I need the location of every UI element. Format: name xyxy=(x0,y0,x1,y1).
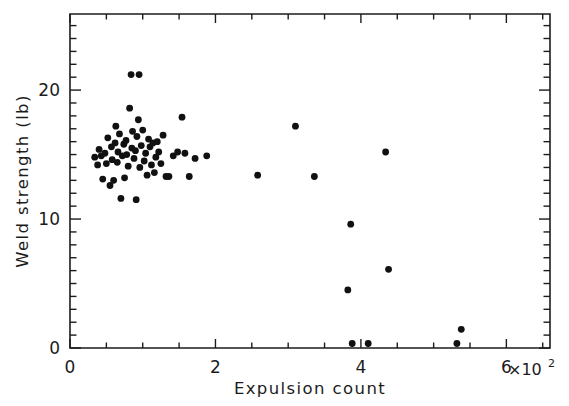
data-point xyxy=(365,340,372,347)
data-point xyxy=(128,71,135,78)
data-point xyxy=(94,161,101,168)
frame-rect xyxy=(70,14,550,348)
data-point xyxy=(112,123,119,130)
data-point xyxy=(104,134,111,141)
data-point xyxy=(132,147,139,154)
data-point xyxy=(155,149,162,156)
data-point xyxy=(458,326,465,333)
data-point xyxy=(203,152,210,159)
axis-ticks xyxy=(70,14,550,348)
y-tick-label: 10 xyxy=(38,209,60,229)
data-point xyxy=(134,133,141,140)
data-point xyxy=(141,158,148,165)
data-point xyxy=(96,146,103,153)
data-point xyxy=(123,151,130,158)
x-tick-label: 2 xyxy=(210,357,221,377)
data-point xyxy=(136,71,143,78)
x-multiplier-base: ×10 xyxy=(508,360,542,379)
data-point xyxy=(91,154,98,161)
data-point xyxy=(118,195,125,202)
data-point xyxy=(123,137,130,144)
data-point xyxy=(139,127,146,134)
data-point xyxy=(144,172,151,179)
data-point xyxy=(133,196,140,203)
x-multiplier-exponent: 2 xyxy=(548,357,555,370)
data-point xyxy=(347,221,354,228)
data-point xyxy=(142,150,149,157)
data-point xyxy=(174,149,181,156)
data-point xyxy=(125,163,132,170)
y-tick-label: 0 xyxy=(49,338,60,358)
data-point xyxy=(160,132,167,139)
data-point xyxy=(311,173,318,180)
data-point xyxy=(382,149,389,156)
data-point xyxy=(385,266,392,273)
data-point xyxy=(148,161,155,168)
plot-canvas: 024601020 Expulsion count Weld strength … xyxy=(0,0,569,406)
data-point xyxy=(292,123,299,130)
data-point xyxy=(136,164,143,171)
data-point xyxy=(102,150,109,157)
data-point xyxy=(349,340,356,347)
data-point xyxy=(182,150,189,157)
data-point xyxy=(121,174,128,181)
x-tick-label: 4 xyxy=(355,357,366,377)
data-point xyxy=(254,172,261,179)
data-point xyxy=(154,138,161,145)
data-point xyxy=(192,155,199,162)
y-axis-title: Weld strength (lb) xyxy=(13,94,32,268)
data-point xyxy=(166,173,173,180)
data-point xyxy=(186,173,193,180)
data-point xyxy=(129,128,136,135)
data-points xyxy=(91,71,464,347)
scatter-plot-figure: 024601020 Expulsion count Weld strength … xyxy=(0,0,569,406)
plot-frame xyxy=(70,14,550,348)
data-point xyxy=(135,116,142,123)
x-axis-title: Expulsion count xyxy=(234,379,386,398)
data-point xyxy=(99,176,106,183)
data-point xyxy=(112,140,119,147)
data-point xyxy=(158,160,165,167)
data-point xyxy=(138,142,145,149)
data-point xyxy=(103,160,110,167)
data-point xyxy=(110,177,117,184)
data-point xyxy=(179,114,186,121)
data-point xyxy=(114,159,121,166)
x-axis-multiplier: ×10 2 xyxy=(508,357,555,379)
x-tick-label: 0 xyxy=(65,357,76,377)
y-tick-label: 20 xyxy=(38,80,60,100)
data-point xyxy=(344,287,351,294)
data-point xyxy=(126,105,133,112)
data-point xyxy=(116,131,123,138)
data-point xyxy=(131,155,138,162)
data-point xyxy=(454,340,461,347)
data-point xyxy=(151,169,158,176)
axis-tick-labels: 024601020 xyxy=(38,80,511,377)
